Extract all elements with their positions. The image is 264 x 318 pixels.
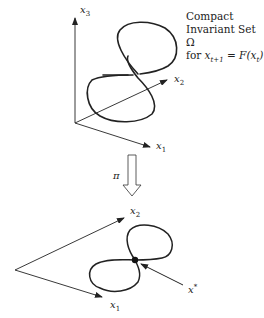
fixed-point-pointer — [141, 264, 183, 285]
invariant-set-curve — [87, 22, 176, 122]
x1-label-2d: x1 — [110, 300, 120, 313]
x2-label-2d: x2 — [130, 206, 140, 219]
caption-line-3: for xt+1 = F(xt) — [186, 49, 264, 67]
x1-axis — [75, 123, 150, 147]
x2-label: x2 — [174, 74, 184, 87]
invariant-set-caption: Compact Invariant Set Ω for xt+1 = F(xt) — [186, 10, 264, 67]
projection-label: π — [113, 171, 120, 181]
x3-label: x3 — [80, 5, 90, 18]
caption-line-1: Compact — [186, 10, 264, 23]
projected-curve — [90, 225, 173, 291]
caption-line-2: Invariant Set Ω — [186, 23, 264, 49]
top-axes — [75, 18, 167, 147]
bottom-axes — [15, 218, 124, 297]
x1-label: x1 — [156, 141, 166, 154]
projection-arrow — [123, 155, 141, 196]
fixed-point-marker — [132, 257, 138, 263]
fixed-point-label: x* — [188, 284, 197, 295]
x2-axis-2d — [15, 218, 124, 270]
